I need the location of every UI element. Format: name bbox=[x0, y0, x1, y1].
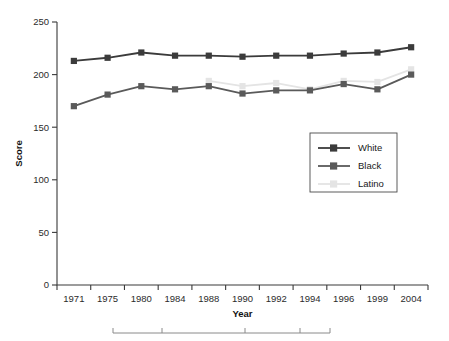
y-tick-label: 50 bbox=[38, 227, 49, 238]
data-point-marker bbox=[138, 83, 144, 89]
legend-label-black: Black bbox=[358, 160, 381, 171]
y-tick-label: 150 bbox=[33, 122, 49, 133]
chart-legend: WhiteBlackLatino bbox=[310, 133, 397, 192]
data-point-marker bbox=[273, 87, 279, 93]
data-point-marker bbox=[408, 72, 414, 78]
legend-swatch-marker bbox=[330, 162, 337, 169]
y-axis-ticks: 050100150200250 bbox=[33, 16, 57, 290]
data-point-marker bbox=[341, 50, 347, 56]
x-axis-title: Year bbox=[232, 308, 252, 319]
data-point-marker bbox=[374, 49, 380, 55]
x-tick-label: 1975 bbox=[97, 293, 118, 304]
x-tick-label: 1988 bbox=[198, 293, 219, 304]
footer-table-edge bbox=[113, 328, 330, 333]
y-tick-label: 0 bbox=[44, 279, 49, 290]
data-point-marker bbox=[239, 83, 245, 89]
x-tick-label: 2004 bbox=[401, 293, 422, 304]
data-point-marker bbox=[273, 53, 279, 59]
data-point-marker bbox=[341, 81, 347, 87]
data-point-marker bbox=[172, 53, 178, 59]
x-tick-label: 1990 bbox=[232, 293, 253, 304]
data-point-marker bbox=[239, 54, 245, 60]
x-tick-label: 1996 bbox=[333, 293, 354, 304]
data-point-marker bbox=[239, 90, 245, 96]
x-tick-label: 1971 bbox=[63, 293, 84, 304]
data-point-marker bbox=[104, 91, 110, 97]
y-tick-label: 250 bbox=[33, 16, 49, 27]
data-point-marker bbox=[172, 86, 178, 92]
x-tick-label: 1994 bbox=[299, 293, 320, 304]
y-axis-title: Score bbox=[13, 140, 24, 166]
data-point-marker bbox=[307, 53, 313, 59]
x-tick-label: 1980 bbox=[131, 293, 152, 304]
data-point-marker bbox=[71, 58, 77, 64]
data-point-marker bbox=[307, 87, 313, 93]
chart-page: 0501001502002501971197519801984198819901… bbox=[0, 0, 449, 341]
series-white bbox=[71, 44, 414, 64]
series-black bbox=[71, 72, 414, 110]
x-axis-ticks: 1971197519801984198819901992199419961999… bbox=[57, 285, 428, 304]
data-point-marker bbox=[206, 83, 212, 89]
data-point-marker bbox=[273, 80, 279, 86]
data-point-marker bbox=[71, 103, 77, 109]
legend-label-white: White bbox=[358, 142, 382, 153]
x-tick-label: 1992 bbox=[266, 293, 287, 304]
data-point-marker bbox=[104, 55, 110, 61]
legend-label-latino: Latino bbox=[358, 178, 384, 189]
data-point-marker bbox=[138, 49, 144, 55]
legend-swatch-marker bbox=[330, 180, 337, 187]
x-tick-label: 1999 bbox=[367, 293, 388, 304]
data-point-marker bbox=[374, 86, 380, 92]
legend-swatch-marker bbox=[330, 144, 337, 151]
y-tick-label: 100 bbox=[33, 174, 49, 185]
series-line bbox=[74, 75, 411, 107]
x-tick-label: 1984 bbox=[164, 293, 185, 304]
line-chart: 0501001502002501971197519801984198819901… bbox=[0, 0, 449, 341]
data-point-marker bbox=[408, 44, 414, 50]
data-point-marker bbox=[206, 53, 212, 59]
data-point-marker bbox=[374, 79, 380, 85]
y-tick-label: 200 bbox=[33, 69, 49, 80]
